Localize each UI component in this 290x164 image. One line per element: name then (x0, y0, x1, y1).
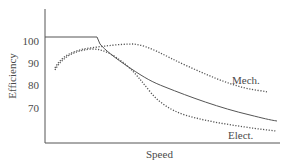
y-tick-80: 80 (28, 79, 40, 91)
y-tick-100: 100 (23, 35, 40, 47)
elect-label: Elect. (228, 129, 254, 141)
mech-label: Mech. (232, 74, 260, 86)
y-axis-label: Efficiency (6, 53, 18, 99)
y-tick-90: 90 (28, 57, 40, 69)
elect-efficiency-line (55, 49, 276, 131)
y-tick-70: 70 (28, 102, 40, 114)
efficiency-vs-speed-chart: 100 90 80 70 Efficiency Speed Mech. Elec… (0, 0, 290, 164)
x-axis-label: Speed (146, 148, 173, 160)
